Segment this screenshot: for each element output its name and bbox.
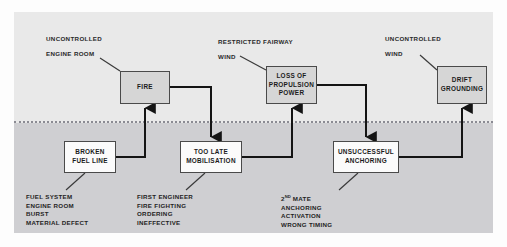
node-broken-fuel-line-label: BROKENFUEL LINE	[72, 148, 108, 165]
annotation-loss-line1: RESTRICTED FAIRWAY	[218, 38, 293, 45]
cause-item: WRONG TIMING	[281, 221, 332, 230]
diagram-canvas: FIRE LOSS OFPROPULSIONPOWER DRIFTGROUNDI…	[0, 0, 507, 247]
node-too-late-mobilisation-label: TOO LATEMOBILISATION	[186, 148, 236, 165]
node-fire-label: FIRE	[137, 83, 153, 92]
node-drift-label: DRIFTGROUNDING	[441, 76, 483, 93]
node-unsuccessful-anchoring-label: UNSUCCESSFULANCHORING	[338, 148, 394, 165]
leader-drift	[420, 55, 437, 70]
cause-item: ANCHORING	[281, 204, 332, 213]
cause-item: ACTIVATION	[281, 212, 332, 221]
annotation-loss: RESTRICTED FAIRWAY WIND	[218, 38, 293, 60]
node-drift-grounding[interactable]: DRIFTGROUNDING	[437, 66, 487, 104]
cause-item: BURST	[26, 210, 88, 219]
cause-item: ORDERING	[137, 210, 193, 219]
node-loss-label: LOSS OFPROPULSIONPOWER	[269, 72, 314, 98]
wire-unsucc-to-drift	[399, 108, 462, 157]
wire-brokenfuel-to-fire	[116, 108, 145, 157]
node-broken-fuel-line[interactable]: BROKENFUEL LINE	[64, 141, 116, 173]
node-fire[interactable]: FIRE	[120, 71, 170, 104]
cause-item: FIRST ENGINEER	[137, 193, 193, 202]
wire-toolate-to-loss	[242, 108, 292, 157]
annotation-drift: UNCONTROLLED WIND	[385, 35, 441, 57]
cause-item: 2ND MATE	[281, 193, 332, 204]
wire-loss-to-unsucc	[317, 85, 366, 137]
cause-item: ENGINE ROOM	[26, 202, 88, 211]
annotation-fire-line2: ENGINE ROOM	[46, 50, 102, 57]
leader-fire	[100, 58, 120, 71]
cause-item: MATERIAL DEFECT	[26, 219, 88, 228]
wire-fire-to-toolate	[170, 87, 211, 137]
annotation-fire-line1: UNCONTROLLED	[46, 35, 102, 42]
annotation-loss-line2: WIND	[218, 53, 293, 60]
annotation-drift-line1: UNCONTROLLED	[385, 35, 441, 42]
cause-item: FIRE FIGHTING	[137, 202, 193, 211]
node-loss-of-propulsion-power[interactable]: LOSS OFPROPULSIONPOWER	[266, 66, 317, 104]
leader-unsucc-causes	[339, 173, 358, 190]
node-too-late-mobilisation[interactable]: TOO LATEMOBILISATION	[180, 141, 242, 173]
cause-list-unsuccessful-anchoring: 2ND MATEANCHORINGACTIVATIONWRONG TIMING	[281, 193, 332, 229]
cause-list-broken-fuel-line: FUEL SYSTEMENGINE ROOMBURSTMATERIAL DEFE…	[26, 193, 88, 227]
cause-list-too-late-mobilisation: FIRST ENGINEERFIRE FIGHTINGORDERINGINEFF…	[137, 193, 193, 227]
annotation-fire: UNCONTROLLED ENGINE ROOM	[46, 35, 102, 57]
cause-item: FUEL SYSTEM	[26, 193, 88, 202]
leader-broken-causes	[66, 173, 85, 190]
annotation-drift-line2: WIND	[385, 50, 441, 57]
node-unsuccessful-anchoring[interactable]: UNSUCCESSFULANCHORING	[333, 141, 399, 173]
cause-item: INEFFECTIVE	[137, 219, 193, 228]
leader-toolate-causes	[186, 173, 205, 190]
